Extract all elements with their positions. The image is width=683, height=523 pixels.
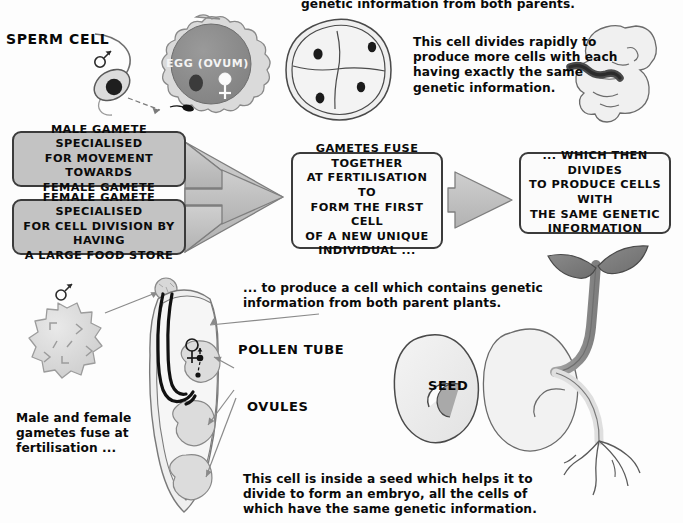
flow-box-which-then-divides[interactable]: ... WHICH THEN DIVIDES TO PRODUCE CELLS … xyxy=(519,152,671,234)
merge-arrow xyxy=(185,142,283,252)
flow-box-gametes-fuse[interactable]: GAMETES FUSE TOGETHER AT FERTILISATION T… xyxy=(291,152,443,249)
label-seed: SEED xyxy=(428,378,468,393)
note-divides-rapidly: This cell divides rapidly to produce mor… xyxy=(413,35,618,96)
note-both-parent-plants: ... to produce a cell which contains gen… xyxy=(243,281,543,311)
note-top-cut-line: genetic information from both parents. xyxy=(301,0,575,12)
label-sperm-cell: SPERM CELL xyxy=(6,31,109,47)
label-ovules: OVULES xyxy=(247,399,308,414)
flow-box-male-gamete[interactable]: MALE GAMETE SPECIALISED FOR MOVEMENT TOW… xyxy=(12,131,186,187)
four-cell-embryo-illustration xyxy=(286,19,391,120)
note-male-female-fuse: Male and female gametes fuse at fertilis… xyxy=(16,411,131,457)
diagram-canvas: SPERM CELL EGG (OVUM) genetic informatio… xyxy=(0,0,683,523)
label-egg-ovum: EGG (OVUM) xyxy=(166,57,249,70)
flow-arrow-right xyxy=(448,172,512,228)
label-pollen-tube: POLLEN TUBE xyxy=(238,342,344,357)
note-inside-a-seed: This cell is inside a seed which helps i… xyxy=(243,472,537,518)
flow-box-female-gamete[interactable]: FEMALE GAMETE SPECIALISED FOR CELL DIVIS… xyxy=(12,199,186,255)
pollen-grain-illustration xyxy=(29,284,158,378)
